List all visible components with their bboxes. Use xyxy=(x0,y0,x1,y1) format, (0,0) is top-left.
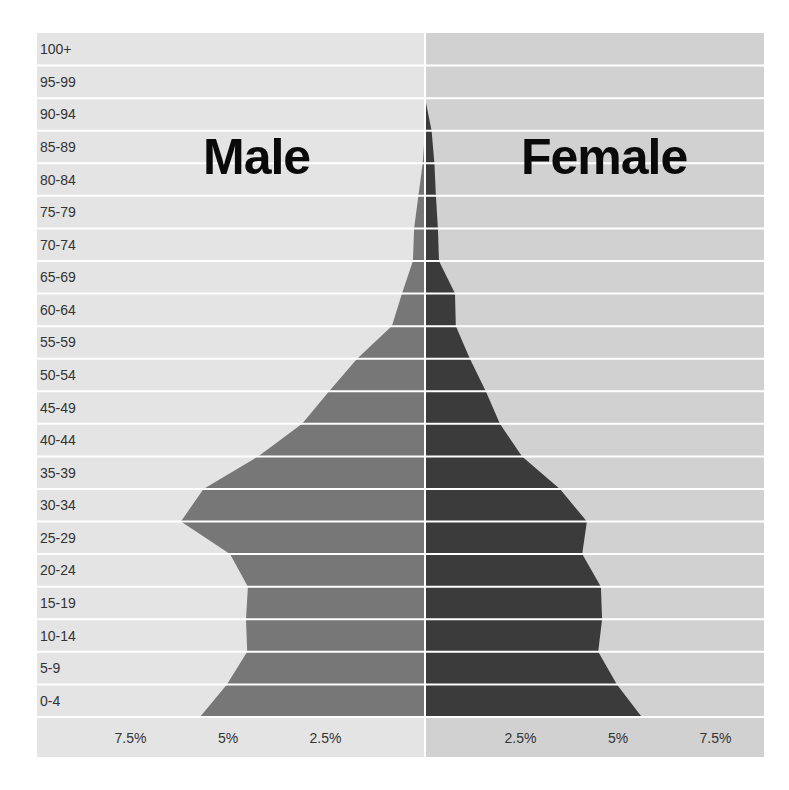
age-group-label: 35-39 xyxy=(40,465,76,481)
male-title: Male xyxy=(203,129,310,185)
age-group-label: 20-24 xyxy=(40,562,76,578)
age-group-label: 30-34 xyxy=(40,497,76,513)
age-group-labels: 100+95-9990-9485-8980-8475-7970-7465-696… xyxy=(40,41,76,708)
age-group-label: 10-14 xyxy=(40,628,76,644)
female-title: Female xyxy=(521,129,688,185)
age-group-label: 50-54 xyxy=(40,367,76,383)
age-group-label: 95-99 xyxy=(40,74,76,90)
x-tick-label-female: 2.5% xyxy=(505,730,537,746)
age-group-label: 0-4 xyxy=(40,693,60,709)
age-group-label: 65-69 xyxy=(40,269,76,285)
age-group-label: 5-9 xyxy=(40,660,60,676)
age-group-label: 45-49 xyxy=(40,400,76,416)
x-tick-label-female: 5% xyxy=(608,730,628,746)
age-group-label: 15-19 xyxy=(40,595,76,611)
age-group-label: 85-89 xyxy=(40,139,76,155)
age-group-label: 70-74 xyxy=(40,237,76,253)
age-group-label: 90-94 xyxy=(40,106,76,122)
x-tick-label-male: 5% xyxy=(218,730,238,746)
age-group-label: 60-64 xyxy=(40,302,76,318)
age-group-label: 40-44 xyxy=(40,432,76,448)
x-tick-label-male: 2.5% xyxy=(310,730,342,746)
age-group-label: 80-84 xyxy=(40,172,76,188)
age-group-label: 55-59 xyxy=(40,334,76,350)
age-group-label: 100+ xyxy=(40,41,72,57)
age-group-label: 75-79 xyxy=(40,204,76,220)
age-group-label: 25-29 xyxy=(40,530,76,546)
population-pyramid-chart: 100+95-9990-9485-8980-8475-7970-7465-696… xyxy=(0,0,789,790)
x-tick-label-female: 7.5% xyxy=(700,730,732,746)
x-tick-label-male: 7.5% xyxy=(115,730,147,746)
